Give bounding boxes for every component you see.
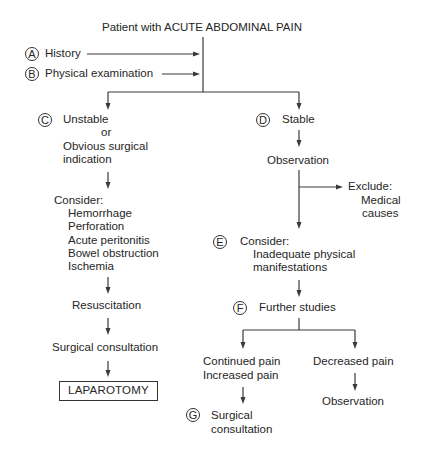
marker-d-icon: D <box>256 113 270 127</box>
arrowhead-icon <box>193 72 200 77</box>
marker-b-icon: B <box>25 67 39 81</box>
consider-item: Acute peritonitis <box>68 234 150 248</box>
consider-item: Perforation <box>68 220 124 234</box>
arrowhead-icon <box>241 397 246 404</box>
exclude-line: causes <box>362 207 398 221</box>
input-physical-exam: Physical examination <box>45 67 153 81</box>
arrowhead-icon <box>106 370 111 377</box>
arrowhead-icon <box>353 384 358 391</box>
diagram-title: Patient with ACUTE ABDOMINAL PAIN <box>102 21 302 35</box>
worse-next-line: Surgical <box>211 409 253 423</box>
better-next-observation: Observation <box>322 395 384 409</box>
arrowhead-icon <box>297 140 302 147</box>
condition-or: or <box>101 126 111 140</box>
marker-e-icon: E <box>213 235 227 249</box>
arrowhead-icon <box>353 342 358 349</box>
arrowhead-icon <box>106 287 111 294</box>
right-consider-line: manifestations <box>253 261 327 275</box>
arrowhead-icon <box>193 52 200 57</box>
condition-stable: Stable <box>282 113 315 127</box>
step-surgical-consultation: Surgical consultation <box>52 341 158 355</box>
arrowhead-icon <box>297 103 302 110</box>
input-history: History <box>45 47 81 61</box>
marker-a-icon: A <box>25 47 39 61</box>
condition-obvious: Obvious surgical <box>63 140 148 154</box>
exclude-line: Medical <box>361 194 401 208</box>
step-observation: Observation <box>267 154 329 168</box>
worse-line: Increased pain <box>203 369 278 383</box>
condition-indication: indication <box>63 153 112 167</box>
arrowhead-icon <box>106 328 111 335</box>
arrowhead-icon <box>336 185 343 190</box>
worse-next-line: consultation <box>211 423 272 437</box>
right-consider-line: Inadequate physical <box>253 248 355 262</box>
exclude-heading: Exclude: <box>348 180 392 194</box>
marker-f-icon: F <box>233 301 247 315</box>
consider-item: Hemorrhage <box>68 207 132 221</box>
step-resuscitation: Resuscitation <box>72 299 141 313</box>
left-consider-heading: Consider: <box>54 194 103 208</box>
condition-unstable: Unstable <box>63 113 108 127</box>
arrowhead-icon <box>106 182 111 189</box>
consider-item: Ischemia <box>68 260 114 274</box>
outcome-laparotomy-box: LAPAROTOMY <box>59 381 158 401</box>
step-further-studies: Further studies <box>259 301 336 315</box>
arrowhead-icon <box>297 222 302 229</box>
marker-c-icon: C <box>38 113 52 127</box>
arrowhead-icon <box>241 342 246 349</box>
arrowhead-icon <box>297 290 302 297</box>
better-outcome: Decreased pain <box>313 355 394 369</box>
worse-line: Continued pain <box>203 355 280 369</box>
right-consider-heading: Consider: <box>240 235 289 249</box>
arrowhead-icon <box>106 103 111 110</box>
consider-item: Bowel obstruction <box>68 247 159 261</box>
marker-g-icon: G <box>186 408 200 422</box>
